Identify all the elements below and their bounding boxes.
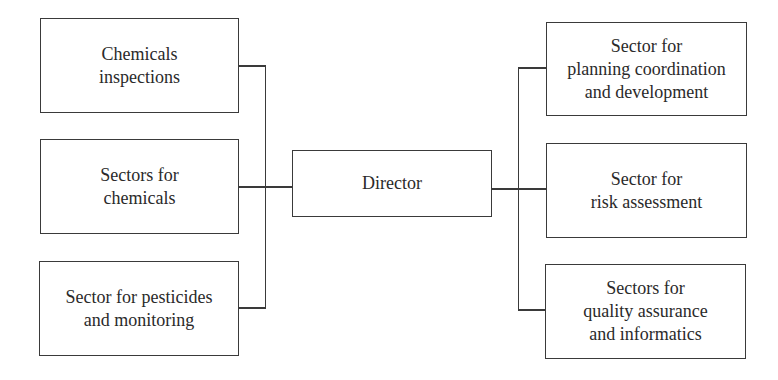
sector-planning-coordination-development-label: Sector for planning coordination and dev…: [567, 35, 725, 104]
sector-risk-assessment-box: Sector for risk assessment: [546, 143, 747, 238]
connector-right-vertical: [518, 67, 520, 311]
sectors-quality-assurance-informatics-box: Sectors for quality assurance and inform…: [545, 264, 746, 359]
sectors-for-chemicals-box: Sectors for chemicals: [40, 139, 239, 234]
connector-right-top: [518, 67, 547, 69]
chemicals-inspections-label: Chemicals inspections: [99, 43, 180, 89]
director-label: Director: [362, 172, 422, 195]
sector-pesticides-monitoring-box: Sector for pesticides and monitoring: [39, 261, 239, 356]
connector-left-top: [239, 65, 266, 67]
connector-left-bottom: [239, 307, 266, 309]
sector-planning-coordination-development-box: Sector for planning coordination and dev…: [546, 22, 747, 116]
connector-left-vertical: [265, 65, 267, 309]
connector-right-bottom: [518, 309, 546, 311]
sectors-for-chemicals-label: Sectors for chemicals: [100, 164, 178, 210]
sector-risk-assessment-label: Sector for risk assessment: [591, 168, 703, 214]
sector-pesticides-monitoring-label: Sector for pesticides and monitoring: [66, 286, 213, 332]
chemicals-inspections-box: Chemicals inspections: [40, 18, 239, 113]
director-box: Director: [292, 150, 492, 217]
sectors-quality-assurance-informatics-label: Sectors for quality assurance and inform…: [583, 277, 707, 346]
